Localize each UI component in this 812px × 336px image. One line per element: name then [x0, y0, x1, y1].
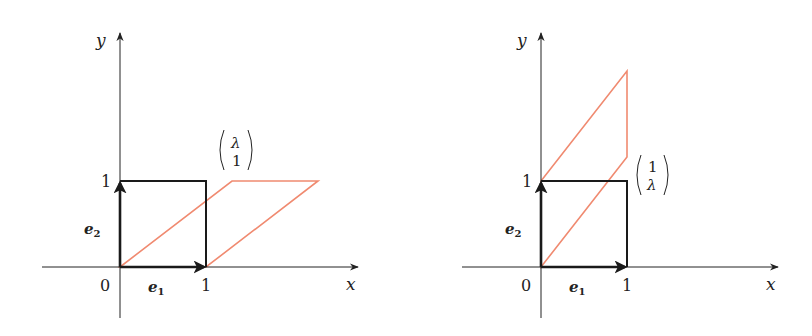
e1-label: e1	[569, 278, 586, 297]
x-tick-one: 1	[201, 276, 211, 295]
y-tick-one: 1	[101, 172, 111, 191]
figure-canvas: y x 0 1 1 e2 e1 λ 1 y x 0 1 1 e2 e1	[0, 0, 812, 336]
origin-label: 0	[521, 276, 531, 295]
column-vector-lambda-1: λ 1	[220, 130, 252, 170]
x-axis-label: x	[766, 274, 776, 294]
e2-label: e2	[84, 220, 101, 239]
unit-square	[120, 181, 206, 267]
x-tick-one: 1	[622, 276, 632, 295]
svg-text:1: 1	[648, 158, 658, 176]
panel-shear-x: y x 0 1 1 e2 e1 λ 1	[42, 30, 358, 318]
svg-text:λ: λ	[230, 134, 241, 152]
unit-square	[541, 181, 627, 267]
origin-label: 0	[100, 276, 110, 295]
column-vector-1-lambda: 1 λ	[637, 155, 668, 195]
svg-text:λ: λ	[646, 176, 657, 194]
e1-label: e1	[148, 278, 165, 297]
y-axis-label: y	[516, 30, 527, 50]
e2-label: e2	[505, 220, 522, 239]
transformed-parallelogram	[541, 71, 627, 267]
x-axis-label: x	[346, 274, 356, 294]
y-axis-label: y	[95, 30, 106, 50]
y-tick-one: 1	[522, 172, 532, 191]
panel-shear-y: y x 0 1 1 e2 e1 1 λ	[462, 30, 778, 318]
svg-text:1: 1	[232, 152, 242, 170]
transformed-parallelogram	[120, 181, 318, 267]
